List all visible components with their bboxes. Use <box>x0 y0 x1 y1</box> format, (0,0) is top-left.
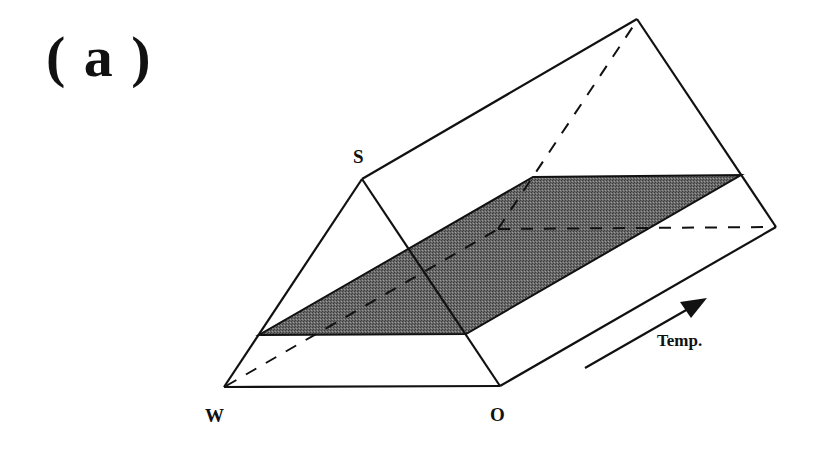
shaded-plane <box>259 175 741 335</box>
temperature-axis-label: Temp. <box>657 332 702 349</box>
ternary-prism-figure: ( a ) <box>0 0 821 453</box>
vertex-label-s: S <box>353 147 364 166</box>
edge-s-back <box>362 19 637 179</box>
vertex-label-o: O <box>490 405 505 424</box>
edge-w-o <box>224 386 500 387</box>
vertex-label-w: W <box>205 406 224 425</box>
prism-diagram <box>0 0 821 453</box>
edge-s-w <box>224 179 362 387</box>
